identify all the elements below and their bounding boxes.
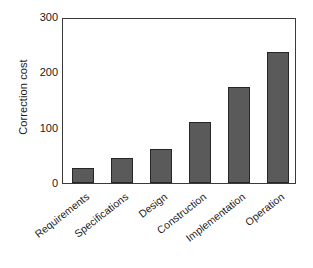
bar	[228, 87, 250, 183]
bar	[150, 149, 172, 183]
y-axis-tick-label: 0	[0, 178, 58, 189]
x-axis-tick-label: Implementation	[184, 191, 247, 244]
y-axis-tick-label: 300	[0, 12, 58, 23]
x-axis-tick-label: Operation	[243, 191, 286, 228]
x-axis-tick-label: Construction	[155, 191, 208, 236]
x-axis-tick-label: Design	[137, 191, 170, 220]
bar	[72, 168, 94, 183]
y-axis-title: Correction cost	[14, 4, 32, 190]
bar	[267, 52, 289, 183]
y-axis-tick-label: 200	[0, 67, 58, 78]
bar	[111, 158, 133, 183]
x-axis-tick-label: Specifications	[72, 191, 130, 240]
plot-area	[62, 18, 296, 184]
y-axis-tick-label: 100	[0, 123, 58, 134]
bar-chart-figure: Correction cost 0100200300 RequirementsS…	[0, 0, 313, 268]
bar	[189, 122, 211, 183]
x-axis-tick-label: Requirements	[33, 191, 91, 240]
